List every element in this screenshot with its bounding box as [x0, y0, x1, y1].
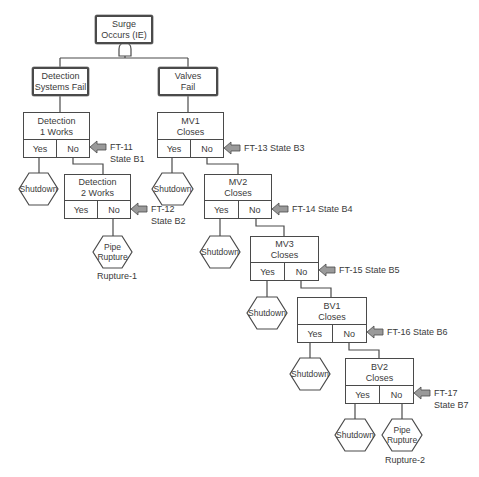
outcome-shutdown: Shutdown	[152, 173, 193, 205]
no-branch: No	[57, 140, 89, 157]
node-label: Closes	[366, 373, 394, 383]
node-bv1: BV1Closes YesNo	[297, 297, 367, 343]
ref-label: FT-15 State B5	[339, 265, 400, 275]
ref-ft17: FT-17State B7	[434, 387, 469, 411]
no-branch: No	[380, 386, 413, 403]
rupture-2-label: Rupture-2	[385, 454, 425, 466]
arrow-left-icon	[90, 141, 106, 153]
detection-systems-fail-box: DetectionSystems Fail	[32, 67, 89, 96]
no-branch: No	[285, 263, 318, 280]
branch-label: Fail	[181, 82, 196, 92]
node-label: 1 Works	[40, 127, 73, 137]
ref-ft12: FT-12State B2	[151, 203, 186, 227]
ref-label: State B7	[434, 400, 469, 410]
outcome-label: Pipe	[393, 425, 410, 435]
branch-label: Valves	[175, 71, 201, 81]
top-event-box: SurgeOccurs (IE)	[95, 15, 153, 44]
node-mv2: MV2Closes YesNo	[204, 174, 272, 219]
outcome-shutdown: Shutdown	[335, 419, 375, 451]
outcome-label: Pipe	[104, 242, 121, 252]
outcome-label: Rupture	[97, 252, 127, 262]
ref-label: State B2	[151, 216, 186, 226]
node-label: Detection	[37, 116, 75, 126]
ref-ft15: FT-15 State B5	[339, 264, 400, 276]
outcome-shutdown: Shutdown	[290, 358, 330, 390]
node-detection-1: Detection1 Works YesNo	[23, 112, 90, 158]
no-branch: No	[191, 140, 223, 157]
ref-label: State B1	[110, 154, 145, 164]
node-label: BV1	[323, 301, 340, 311]
no-branch: No	[98, 201, 130, 218]
node-label: BV2	[371, 362, 388, 372]
ref-label: FT-17	[434, 388, 458, 398]
node-label: MV1	[181, 116, 200, 126]
ref-label: FT-11	[110, 142, 133, 152]
yes-branch: Yes	[346, 386, 380, 403]
top-event-line2: Occurs (IE)	[101, 30, 147, 40]
node-label: MV3	[275, 239, 294, 249]
arrow-left-icon	[224, 142, 240, 154]
node-mv1: MV1Closes YesNo	[157, 112, 224, 158]
yes-branch: Yes	[65, 201, 98, 218]
yes-branch: Yes	[251, 263, 285, 280]
arrow-left-icon	[131, 203, 147, 215]
yes-branch: Yes	[298, 325, 333, 342]
ref-ft14: FT-14 State B4	[292, 203, 353, 215]
node-label: 2 Works	[81, 188, 114, 198]
ref-label: FT-13 State B3	[244, 143, 305, 153]
node-label: Detection	[78, 177, 116, 187]
outcome-shutdown: Shutdown	[19, 173, 58, 205]
node-label: MV2	[229, 177, 248, 187]
node-label: Closes	[224, 188, 252, 198]
rupture-1-label: Rupture-1	[97, 270, 137, 282]
ref-label: FT-14 State B4	[292, 204, 353, 214]
branch-label: Systems Fail	[35, 82, 87, 92]
yes-branch: Yes	[24, 140, 57, 157]
node-mv3: MV3Closes YesNo	[250, 236, 319, 281]
ref-ft16: FT-16 State B6	[387, 326, 448, 338]
ref-ft11: FT-11State B1	[110, 141, 145, 165]
yes-branch: Yes	[205, 201, 239, 218]
ref-label: FT-16 State B6	[387, 327, 448, 337]
outcome-pipe-rupture: PipeRupture	[382, 419, 422, 451]
arrow-left-icon	[414, 387, 430, 399]
node-label: Closes	[271, 250, 299, 260]
valves-fail-box: ValvesFail	[158, 67, 218, 96]
arrow-left-icon	[367, 326, 383, 338]
arrow-left-icon	[319, 264, 335, 276]
node-detection-2: Detection2 Works YesNo	[64, 174, 131, 219]
arrow-left-icon	[272, 203, 288, 215]
outcome-shutdown: Shutdown	[200, 236, 240, 268]
outcome-label: Rupture	[387, 435, 417, 445]
node-bv2: BV2Closes YesNo	[345, 358, 414, 404]
node-label: Closes	[318, 312, 346, 322]
yes-branch: Yes	[158, 140, 191, 157]
outcome-shutdown: Shutdown	[247, 297, 287, 329]
ref-ft13: FT-13 State B3	[244, 142, 305, 154]
and-gate-icon	[119, 43, 131, 56]
no-branch: No	[239, 201, 272, 218]
top-event-line1: Surge	[112, 19, 136, 29]
ref-label: FT-12	[151, 204, 175, 214]
outcome-pipe-rupture: PipeRupture	[93, 236, 132, 268]
branch-label: Detection	[41, 71, 79, 81]
node-label: Closes	[177, 127, 205, 137]
no-branch: No	[333, 325, 367, 342]
